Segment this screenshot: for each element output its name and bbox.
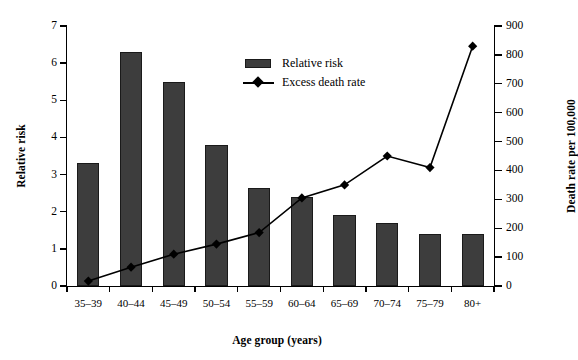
y-axis-right-tick	[495, 199, 502, 200]
y-axis-left-tick-label: 7	[40, 20, 57, 31]
x-axis-tick	[451, 286, 452, 292]
bar	[205, 145, 227, 286]
y-axis-right-tick-label: 800	[506, 49, 536, 60]
bar	[163, 82, 185, 286]
y-axis-left-tick-label: 2	[40, 206, 57, 217]
y-axis-right-tick-label: 100	[506, 251, 536, 262]
y-axis-right-tick	[495, 141, 502, 142]
x-axis-tick	[323, 286, 324, 292]
bar	[462, 234, 484, 286]
y-axis-left-tick-label: 6	[40, 57, 57, 68]
y-axis-left-title: Relative risk	[14, 26, 28, 286]
x-axis-tick	[365, 286, 366, 292]
y-axis-right-tick	[495, 54, 502, 55]
y-axis-left-tick	[60, 25, 67, 26]
y-axis-right-tick-label: 400	[506, 164, 536, 175]
y-axis-right-tick-label: 600	[506, 107, 536, 118]
x-axis-tick	[152, 286, 153, 292]
y-axis-right-tick	[495, 83, 502, 84]
y-axis-right-tick-label: 900	[506, 20, 536, 31]
y-axis-left-tick	[60, 174, 67, 175]
bar	[77, 163, 99, 286]
x-axis-tick-label: 80+	[446, 297, 500, 309]
y-axis-right-line	[494, 25, 495, 287]
legend-item-relative-risk: Relative risk	[242, 55, 442, 72]
y-axis-left-tick	[60, 248, 67, 249]
x-axis-tick	[109, 286, 110, 292]
y-axis-right-tick	[495, 170, 502, 171]
y-axis-left-tick	[60, 211, 67, 212]
y-axis-left-tick	[60, 62, 67, 63]
y-axis-left-tick-label: 3	[40, 169, 57, 180]
bar	[120, 52, 142, 286]
data-point-marker	[383, 151, 392, 160]
x-axis-tick	[408, 286, 409, 292]
bar	[419, 234, 441, 286]
y-axis-right-tick	[495, 285, 502, 286]
y-axis-left-tick-label: 5	[40, 94, 57, 105]
y-axis-right-tick	[495, 256, 502, 257]
x-axis-tick	[280, 286, 281, 292]
bar	[291, 197, 313, 286]
chart-legend: Relative risk Excess death rate	[242, 55, 442, 93]
y-axis-right-tick-label: 300	[506, 193, 536, 204]
y-axis-right-title: Death rate per 100,000	[564, 26, 578, 286]
y-axis-right-tick-label: 500	[506, 136, 536, 147]
legend-label-excess-death-rate: Excess death rate	[276, 75, 365, 90]
chart-figure: Relative risk Death rate per 100,000 Age…	[0, 0, 578, 360]
y-axis-left-tick	[60, 100, 67, 101]
y-axis-right-tick	[495, 112, 502, 113]
y-axis-left-tick	[60, 137, 67, 138]
legend-line-diamond-icon	[242, 74, 276, 91]
bar	[376, 223, 398, 286]
y-axis-right-tick-label: 200	[506, 222, 536, 233]
legend-bar-swatch-icon	[242, 55, 276, 72]
x-axis-tick	[66, 286, 67, 292]
y-axis-right-tick-label: 0	[506, 280, 536, 291]
legend-item-excess-death-rate: Excess death rate	[242, 74, 442, 91]
y-axis-left-tick-label: 1	[40, 243, 57, 254]
y-axis-right-tick-label: 700	[506, 78, 536, 89]
x-axis-tick	[493, 286, 494, 292]
y-axis-left-tick-label: 4	[40, 131, 57, 142]
y-axis-right-tick	[495, 228, 502, 229]
x-axis-title: Age group (years)	[60, 334, 494, 346]
x-axis-tick	[194, 286, 195, 292]
y-axis-right-tick	[495, 25, 502, 26]
x-axis-tick	[237, 286, 238, 292]
data-point-marker	[425, 163, 434, 172]
bar	[333, 215, 355, 286]
data-point-marker	[468, 42, 477, 51]
bar	[248, 188, 270, 286]
legend-label-relative-risk: Relative risk	[276, 56, 343, 71]
y-axis-left-tick-label: 0	[40, 280, 57, 291]
data-point-marker	[340, 180, 349, 189]
